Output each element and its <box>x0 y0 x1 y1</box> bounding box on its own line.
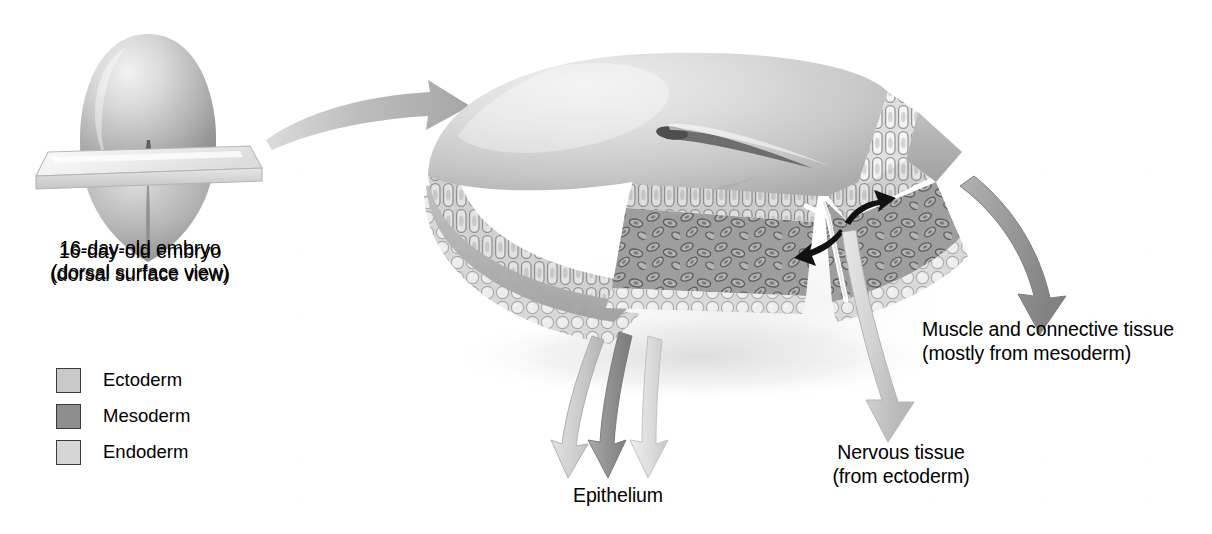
muscle-connective-label-line-1: Muscle and connective tissue <box>922 317 1174 341</box>
muscle-connective-label: Muscle and connective tissue (mostly fro… <box>922 317 1174 365</box>
dorsal-top-surface <box>428 49 888 204</box>
legend-label-endoderm: Endoderm <box>103 441 188 463</box>
embryo-caption-line-2: (dorsal surface view) <box>0 260 280 284</box>
left-cut-mesoderm <box>612 208 814 296</box>
epithelium-label-line-1: Epithelium <box>508 483 728 507</box>
legend-swatch-mesoderm <box>56 404 81 429</box>
nervous-tissue-label: Nervous tissue (from ectoderm) <box>786 440 1016 488</box>
muscle-connective-label-line-2: (mostly from mesoderm) <box>922 341 1174 365</box>
embryo-caption: 16-day-old embryo (dorsal surface view) <box>0 236 280 284</box>
epithelium-label: Epithelium <box>508 483 728 507</box>
legend-label-mesoderm: Mesoderm <box>103 405 190 427</box>
left-cut-face <box>606 184 818 314</box>
nervous-tissue-label-line-2: (from ectoderm) <box>786 464 1016 488</box>
legend-item-ectoderm: Ectoderm <box>56 362 190 398</box>
legend-swatch-ectoderm <box>56 368 81 393</box>
legend-item-mesoderm: Mesoderm <box>56 398 190 434</box>
section-plane <box>36 146 262 189</box>
legend-swatch-endoderm <box>56 440 81 465</box>
muscle-connective-callout-arrow <box>960 176 1066 334</box>
legend-item-endoderm: Endoderm <box>56 434 190 470</box>
embryo-caption-line-1: 16-day-old embryo <box>0 236 280 260</box>
legend-label-ectoderm: Ectoderm <box>103 369 182 391</box>
nervous-tissue-label-line-1: Nervous tissue <box>786 440 1016 464</box>
embryonic-disc-block <box>424 49 968 344</box>
germ-layer-legend: Ectoderm Mesoderm Endoderm <box>56 362 190 470</box>
embryology-figure: 16-day-old embryo (dorsal surface view) <box>0 0 1212 534</box>
